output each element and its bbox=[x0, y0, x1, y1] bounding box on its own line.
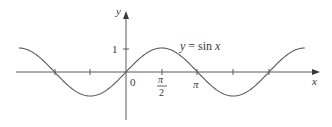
svg-text:π: π bbox=[158, 74, 164, 85]
sine-chart: y x 0 1 π 2 π y = sin x bbox=[0, 0, 332, 127]
x-tick-label-pi-half: π 2 bbox=[157, 74, 167, 98]
svg-text:2: 2 bbox=[159, 87, 164, 98]
y-tick-label-one: 1 bbox=[112, 43, 118, 55]
y-axis-arrow-icon bbox=[123, 11, 129, 19]
origin-label: 0 bbox=[130, 76, 136, 88]
y-axis-label: y bbox=[115, 5, 121, 17]
x-tick-label-pi: π bbox=[193, 78, 199, 90]
function-label: y = sin x bbox=[179, 39, 221, 53]
x-axis-label: x bbox=[311, 75, 317, 87]
